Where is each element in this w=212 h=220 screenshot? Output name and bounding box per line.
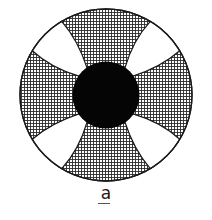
center-black-circle bbox=[73, 62, 140, 129]
figure-label-underline bbox=[98, 203, 110, 204]
figure-label: a bbox=[96, 184, 116, 202]
